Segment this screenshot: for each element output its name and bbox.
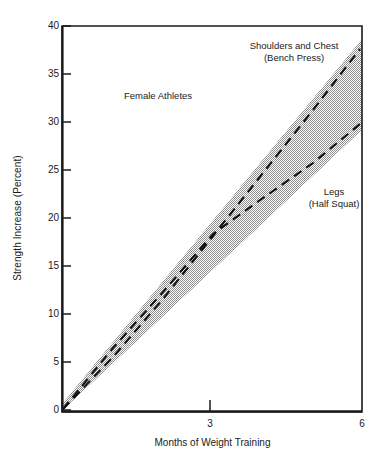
annotation-female-athletes: Female Athletes xyxy=(108,90,208,102)
plot-area xyxy=(0,0,386,463)
annotation-shoulders-line2: (Bench Press) xyxy=(232,52,356,64)
annotation-legs-line2: (Half Squat) xyxy=(298,198,370,210)
shaded-range-band xyxy=(62,39,362,411)
chart-figure: Strength Increase (Percent) 40 35 30 25 … xyxy=(0,0,386,463)
annotation-shoulders-line1: Shoulders and Chest xyxy=(232,40,356,52)
annotation-legs-line1: Legs xyxy=(298,186,370,198)
y-tick-marks xyxy=(63,26,71,410)
